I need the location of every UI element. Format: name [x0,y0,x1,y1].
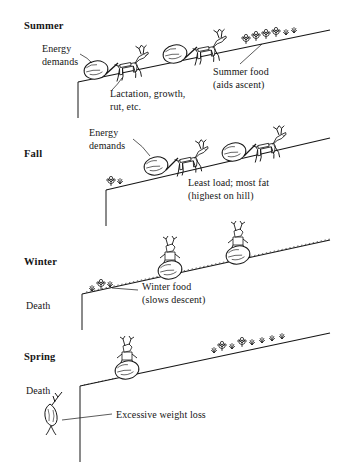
panel-winter-artwork [82,221,330,330]
annotation-fall-energy-demands: Energy demands [89,127,125,152]
annotation-line: Energy [42,43,78,56]
annotation-line: demands [89,140,125,153]
annotation-line: (highest on hill) [188,190,269,203]
annotation-line: (slows descent) [142,294,205,307]
annotation-line: demands [42,56,78,69]
annotation-spring-weight-loss: Excessive weight loss [116,409,206,421]
annotation-line: Lactation, growth, [110,88,185,101]
season-label-winter: Winter [24,256,57,268]
annotation-spring-death: Death [26,385,50,397]
annotation-winter-death: Death [26,300,50,312]
annotation-line: rut, etc. [110,101,185,114]
season-label-summer: Summer [24,20,64,32]
annotation-summer-lactation: Lactation, growth, rut, etc. [110,88,185,113]
panel-fall-artwork [106,125,330,226]
panel-spring-artwork [45,333,330,462]
annotation-line: Summer food [213,66,269,79]
annotation-summer-food: Summer food (aids ascent) [213,66,269,91]
season-label-spring: Spring [24,351,56,363]
annotation-winter-food: Winter food (slows descent) [142,281,205,306]
annotation-fall-least-load: Least load; most fat (highest on hill) [188,177,269,202]
annotation-line: Energy [89,127,125,140]
season-label-fall: Fall [24,148,42,160]
diagram-artwork [0,0,340,469]
annotation-line: Winter food [142,281,205,294]
annotation-line: Least load; most fat [188,177,269,190]
annotation-line: (aids ascent) [213,79,269,92]
figure-canvas: Summer Energy demands Lactation, growth,… [0,0,340,469]
annotation-summer-energy-demands: Energy demands [42,43,78,68]
